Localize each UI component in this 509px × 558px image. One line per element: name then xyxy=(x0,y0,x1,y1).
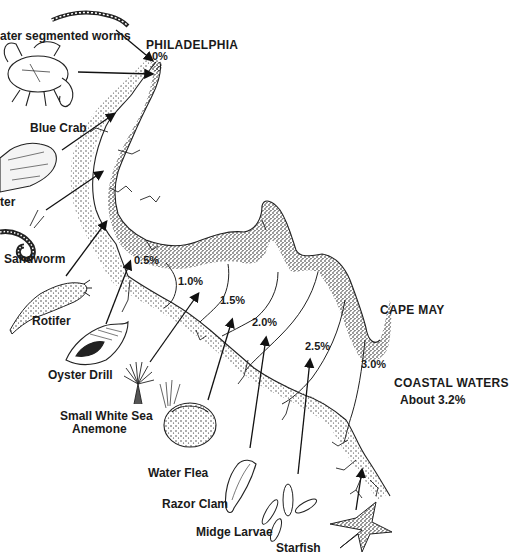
razor-clam-icon xyxy=(226,460,257,512)
arrow-starfish xyxy=(356,470,362,510)
tributaries xyxy=(90,128,378,498)
water-flea-icon xyxy=(160,380,216,447)
label-coastal-salinity: About 3.2% xyxy=(400,393,465,407)
blue-crab-icon xyxy=(4,42,73,107)
label-oyster-drill: Oyster Drill xyxy=(48,369,113,382)
starfish-icon xyxy=(330,502,392,552)
oyster-drill-icon xyxy=(66,322,128,365)
salinity-label-0: 0% xyxy=(152,50,168,62)
east-shore xyxy=(108,62,391,362)
label-sandworm: Sandworm xyxy=(4,253,65,266)
isoline-1-0 xyxy=(200,264,229,322)
label-coastal-waters: COASTAL WATERS xyxy=(394,376,509,390)
label-rotifer: Rotifer xyxy=(32,315,71,328)
arrow-midge-larvae xyxy=(298,360,310,474)
salinity-label-1-0: 1.0% xyxy=(178,275,203,287)
salinity-label-1-5: 1.5% xyxy=(220,294,245,306)
salinity-label-0-5: 0.5% xyxy=(134,254,159,266)
sea-anemone-icon xyxy=(124,362,154,404)
segmented-worm-icon xyxy=(52,13,128,26)
label-midge-larvae: Midge Larvae xyxy=(196,526,273,539)
label-cape-may: CAPE MAY xyxy=(380,303,445,317)
salinity-label-3-0: 3.0% xyxy=(361,358,386,370)
label-blue-crab: Blue Crab xyxy=(30,122,87,135)
salinity-label-2-0: 2.0% xyxy=(252,316,277,328)
label-anemone-line2: Anemone xyxy=(72,423,127,436)
oyster-icon xyxy=(0,143,56,192)
label-oyster: ter xyxy=(0,196,15,209)
label-starfish: Starfish xyxy=(276,542,321,555)
label-segmented-worms: ater segmented worms xyxy=(0,30,131,43)
salinity-label-2-5: 2.5% xyxy=(305,340,330,352)
arrow-razor-clam xyxy=(250,338,266,448)
label-water-flea: Water Flea xyxy=(148,467,208,480)
label-razor-clam: Razor Clam xyxy=(162,498,228,511)
